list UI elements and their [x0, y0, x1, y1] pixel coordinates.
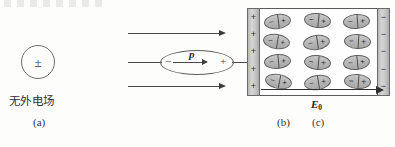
polarized-molecule: − + — [262, 32, 291, 51]
molecule-positive-sign: + — [281, 78, 287, 87]
molecule-negative-sign: − — [308, 79, 314, 88]
molecule-positive-sign: + — [281, 57, 286, 65]
molecule-divider — [357, 75, 359, 88]
panel-a-nonpolar-molecule: ± 无外电场 (a) — [0, 0, 120, 147]
polarized-molecule: − + — [343, 13, 371, 30]
molecule-divider — [277, 55, 279, 68]
molecule-positive-sign: + — [321, 59, 326, 67]
plate-positive-sign-3: + — [251, 47, 256, 56]
plate-negative-sign-1: − — [381, 13, 386, 22]
polarized-molecule: − + — [303, 12, 331, 30]
plate-positive-sign-2: + — [251, 30, 256, 39]
molecule-positive-sign: + — [320, 37, 326, 46]
molecule-divider — [316, 36, 319, 49]
molecule-divider — [316, 76, 319, 89]
molecule-divider — [277, 75, 280, 88]
plate-positive-sign-1: + — [251, 13, 256, 22]
polarized-molecule: − + — [263, 53, 291, 70]
panel-c-polarized-dielectric: + + + + + − − − − − − + − + — [245, 0, 395, 147]
capacitor-plate-positive: + + + + + — [247, 8, 260, 96]
molecule-divider — [356, 56, 358, 69]
molecule-positive-sign: + — [361, 78, 366, 86]
field-line-middle-left — [128, 62, 162, 63]
figure-dielectric-polarization: ± 无外电场 (a) − + p E0 (b) + + + + — [0, 0, 395, 147]
label-no-external-field: 无外电场 — [9, 92, 55, 108]
molecule-positive-sign: + — [280, 38, 286, 47]
molecule-positive-sign: + — [361, 38, 366, 46]
polarized-molecule: − + — [344, 73, 372, 90]
polarized-molecule: − + — [342, 54, 370, 72]
dielectric-medium-area: − + − + − + − + − + — [260, 8, 377, 96]
dipole-moment-label: p — [189, 48, 195, 60]
field-line-top-arrowhead — [219, 30, 226, 36]
plate-positive-sign-4: + — [251, 65, 256, 74]
dipole-moment-arrowhead — [202, 59, 208, 65]
plate-positive-sign-5: + — [251, 82, 256, 91]
external-field-arrow-line — [261, 89, 378, 90]
field-line-top — [128, 33, 220, 34]
molecule-divider — [317, 14, 319, 27]
dipole-positive-sign: + — [220, 55, 226, 67]
field-line-bottom-arrowhead — [219, 83, 226, 89]
molecule-divider — [357, 35, 359, 48]
external-field-arrowhead — [376, 86, 384, 94]
plate-negative-sign-3: − — [381, 47, 386, 56]
molecule-negative-sign: − — [348, 59, 353, 67]
molecule-positive-sign: + — [321, 17, 326, 25]
molecule-negative-sign: − — [269, 76, 275, 85]
dipole-moment-arrow-line — [173, 62, 203, 63]
molecule-negative-sign: − — [269, 58, 274, 66]
molecule-positive-sign: + — [321, 77, 327, 86]
molecule-negative-sign: − — [309, 16, 314, 24]
polarized-molecule: − + — [303, 54, 331, 71]
molecule-positive-sign: + — [360, 58, 365, 66]
caption-panel-c: (c) — [312, 116, 324, 128]
plate-negative-sign-2: − — [381, 30, 386, 39]
polarized-molecule: − + — [302, 33, 331, 52]
molecule-negative-sign: − — [349, 77, 354, 85]
molecule-divider — [317, 56, 319, 69]
field-subscript-0-c: 0 — [318, 103, 322, 112]
field-label-E0-panel-c: E0 — [311, 98, 322, 112]
molecule-positive-sign: + — [360, 17, 365, 25]
molecule-divider — [277, 15, 280, 28]
dipole-negative-sign: − — [165, 55, 171, 67]
molecule-divider — [275, 35, 278, 48]
caption-panel-a: (a) — [33, 116, 45, 128]
molecule-negative-sign: − — [267, 36, 273, 45]
molecule-positive-sign: + — [281, 16, 287, 25]
molecule-negative-sign: − — [269, 18, 275, 27]
field-line-bottom — [128, 86, 220, 87]
molecule-negative-sign: − — [349, 37, 354, 45]
molecule-negative-sign: − — [308, 39, 314, 48]
molecule-negative-sign: − — [309, 58, 314, 66]
plus-minus-symbol: ± — [21, 45, 55, 79]
polarized-molecule: − + — [263, 12, 292, 30]
polarized-molecule: − + — [344, 33, 372, 49]
panel-b-induced-dipole: − + p E0 (b) — [120, 0, 245, 147]
capacitor-plate-negative: − − − − − — [377, 8, 390, 96]
molecule-negative-sign: − — [348, 18, 353, 26]
molecule-divider — [356, 15, 358, 28]
plate-negative-sign-4: − — [381, 65, 386, 74]
